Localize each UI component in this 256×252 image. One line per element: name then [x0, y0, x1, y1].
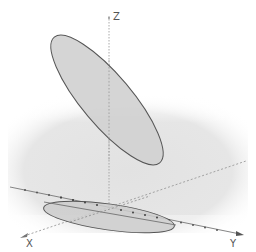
y-axis-label: Y [229, 238, 237, 249]
3d-scene-canvas[interactable]: Z X Y [0, 0, 256, 252]
z-axis-label: Z [113, 11, 120, 22]
x-axis-label: X [26, 238, 33, 249]
